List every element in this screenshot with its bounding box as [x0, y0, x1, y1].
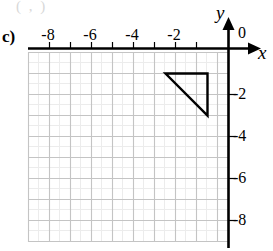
grid-minor	[28, 52, 228, 242]
plot-canvas	[0, 0, 273, 251]
y-axis	[223, 17, 237, 248]
graph-figure: ( , ) c) -8 -6 -4 -2 -2 -4 -6 -8 0 y x	[0, 0, 273, 251]
